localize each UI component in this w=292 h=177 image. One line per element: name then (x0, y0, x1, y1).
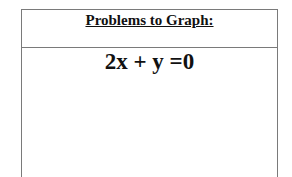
table-header: Problems to Graph: (22, 10, 277, 48)
problems-table: Problems to Graph: 2x + y =0 (21, 9, 278, 177)
header-title: Problems to Graph: (85, 12, 213, 29)
problem-equation: 2x + y =0 (22, 49, 277, 75)
